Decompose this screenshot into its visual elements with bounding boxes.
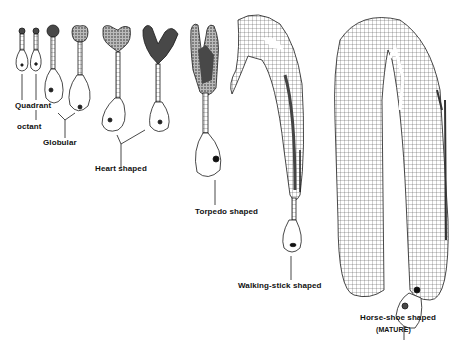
label-octant: octant [17, 122, 42, 131]
globular-embryo-1 [45, 25, 63, 103]
label-mature: (MATURE) [376, 326, 411, 333]
embryo-stages-drawing [0, 0, 460, 343]
label-horse-shoe-shaped: Horse-shoe shaped [360, 313, 436, 322]
label-walking-stick-shaped: Walking-stick shaped [238, 281, 322, 290]
embryo-diagram: Quadrant octant Globular Heart shaped To… [0, 0, 460, 343]
quadrant-embryo [16, 28, 28, 100]
label-globular: Globular [43, 138, 77, 147]
torpedo-embryo [191, 24, 221, 205]
label-quadrant: Quadrant [15, 101, 51, 110]
label-heart-shaped: Heart shaped [95, 164, 147, 173]
heart-embryo-2 [117, 25, 178, 168]
label-torpedo-shaped: Torpedo shaped [195, 207, 258, 216]
globular-embryo-2 [58, 26, 90, 138]
heart-embryo-1 [102, 26, 130, 132]
horse-shoe-embryo [335, 18, 449, 341]
walking-stick-embryo [231, 15, 304, 280]
